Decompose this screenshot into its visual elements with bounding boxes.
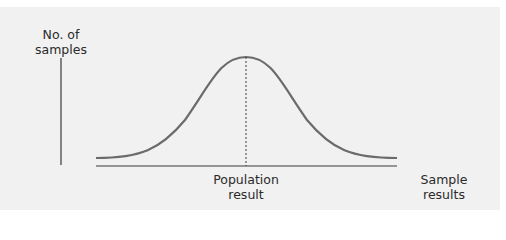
x-axis-label: Sample results bbox=[414, 172, 474, 202]
y-axis-label: No. of samples bbox=[28, 27, 94, 57]
x-axis-label-line2: results bbox=[414, 187, 474, 202]
x-axis-label-line1: Sample bbox=[414, 172, 474, 187]
population-result-label: Population result bbox=[206, 172, 286, 202]
y-axis-label-line1: No. of bbox=[28, 27, 94, 42]
y-axis-label-line2: samples bbox=[28, 42, 94, 57]
center-label-line2: result bbox=[206, 187, 286, 202]
center-label-line1: Population bbox=[206, 172, 286, 187]
